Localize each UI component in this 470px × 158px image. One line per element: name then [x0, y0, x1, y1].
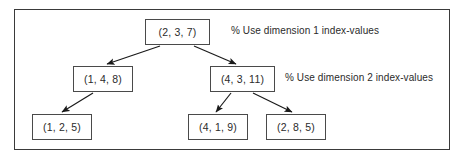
tree-node-right-left: (4, 1, 9) [188, 114, 248, 140]
tree-edge-left-to-left-child [62, 93, 93, 112]
tree-edge-right-to-right-left [216, 93, 231, 112]
tree-node-right-right: (2, 8, 5) [266, 114, 326, 140]
tree-node-label: (2, 8, 5) [277, 122, 315, 133]
tree-edge-root-to-right [194, 46, 236, 64]
tree-node-label: (2, 3, 7) [159, 27, 197, 38]
tree-edge-right-to-right-right [253, 93, 292, 112]
tree-node-root: (2, 3, 7) [145, 19, 210, 45]
tree-node-label: (4, 1, 9) [199, 122, 237, 133]
annotation-dim1-note: % Use dimension 1 index-values [231, 26, 379, 36]
kd-tree-figure: (2, 3, 7)(1, 4, 8)(4, 3, 11)(1, 2, 5)(4,… [0, 0, 470, 158]
tree-node-label: (1, 2, 5) [43, 122, 81, 133]
annotation-dim2-note: % Use dimension 2 index-values [285, 73, 433, 83]
tree-node-label: (4, 3, 11) [221, 74, 264, 85]
tree-node-left-child: (1, 2, 5) [32, 114, 92, 140]
tree-node-right: (4, 3, 11) [210, 66, 275, 92]
tree-edge-root-to-left [107, 46, 160, 64]
tree-node-left: (1, 4, 8) [73, 66, 133, 92]
tree-node-label: (1, 4, 8) [84, 74, 122, 85]
